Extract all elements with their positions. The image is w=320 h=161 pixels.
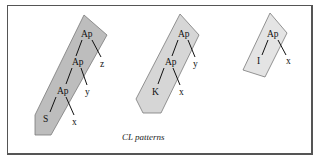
node-combinator-k: K xyxy=(152,87,159,97)
node-arg-y: y xyxy=(193,59,198,69)
node-combinator-i: I xyxy=(257,56,260,66)
i-pattern: Ap I x xyxy=(243,13,291,77)
node-ap: Ap xyxy=(81,29,93,39)
node-arg-y: y xyxy=(85,87,90,97)
node-ap: Ap xyxy=(267,29,279,39)
node-ap: Ap xyxy=(165,57,177,67)
node-arg-x: x xyxy=(179,87,184,97)
node-combinator-s: S xyxy=(43,114,48,124)
k-pattern: Ap Ap K y x xyxy=(136,14,199,113)
node-ap: Ap xyxy=(57,86,69,96)
node-arg-x: x xyxy=(286,56,291,66)
cl-patterns-diagram: Ap Ap Ap S z y x Ap Ap K y x Ap I x CL p… xyxy=(0,0,320,161)
node-arg-z: z xyxy=(100,59,104,69)
node-ap: Ap xyxy=(178,29,190,39)
node-arg-x: x xyxy=(72,117,77,127)
node-ap: Ap xyxy=(72,57,84,67)
figure-caption: CL patterns xyxy=(122,132,165,142)
s-pattern: Ap Ap Ap S z y x xyxy=(35,15,107,135)
